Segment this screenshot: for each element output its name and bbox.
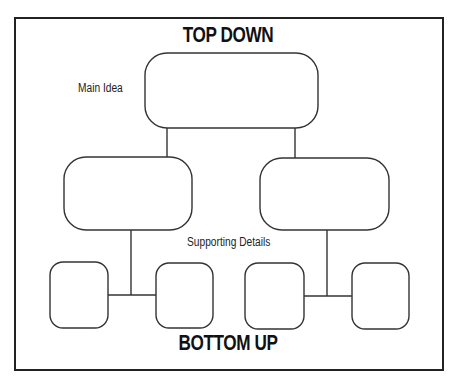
- hierarchy-diagram: [0, 0, 456, 385]
- detail-box-3[interactable]: [245, 263, 304, 329]
- detail-box-1[interactable]: [50, 262, 108, 328]
- mid-right-box[interactable]: [260, 158, 389, 230]
- detail-box-2[interactable]: [156, 263, 213, 328]
- mid-left-box[interactable]: [64, 157, 192, 230]
- main-idea-box[interactable]: [145, 53, 318, 128]
- detail-box-4[interactable]: [352, 263, 409, 329]
